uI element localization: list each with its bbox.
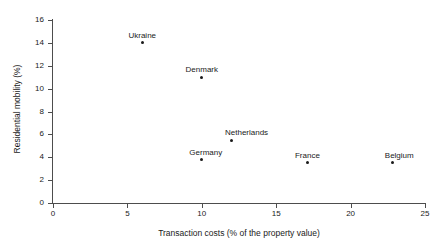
y-axis-title: Residential mobility (%): [12, 14, 22, 204]
y-axis-spine: [52, 19, 53, 204]
y-axis-tick: [48, 112, 52, 113]
x-axis-spine: [52, 203, 426, 204]
x-axis-tick: [425, 204, 426, 208]
x-axis-tick: [276, 204, 277, 208]
x-axis-tick: [351, 204, 352, 208]
y-axis-tick: [48, 203, 52, 204]
plot-area: [53, 20, 425, 203]
y-axis-tick: [48, 89, 52, 90]
data-point-label: Belgium: [385, 152, 414, 160]
x-axis-tick-label: 5: [112, 210, 142, 218]
x-axis-title: Transaction costs (% of the property val…: [53, 228, 425, 238]
data-point: [230, 139, 233, 142]
scatter-chart-figure: 0246810121416 0510152025 UkraineDenmarkN…: [0, 0, 444, 249]
x-axis-tick-label: 10: [187, 210, 217, 218]
y-axis-tick: [48, 20, 52, 21]
y-axis-tick: [48, 66, 52, 67]
data-point-label: Germany: [189, 149, 222, 157]
y-axis-tick: [48, 134, 52, 135]
x-axis-tick: [127, 204, 128, 208]
y-axis-tick-label: 0: [0, 199, 44, 207]
y-axis-tick-label: 2: [0, 176, 44, 184]
x-axis-tick-label: 0: [38, 210, 68, 218]
y-axis-tick-label: 12: [0, 62, 44, 70]
x-axis-tick: [53, 204, 54, 208]
x-axis-tick: [202, 204, 203, 208]
y-axis-tick: [48, 157, 52, 158]
x-axis-tick-label: 15: [261, 210, 291, 218]
y-axis-tick: [48, 180, 52, 181]
data-point-label: France: [295, 152, 320, 160]
x-axis-tick-label: 25: [410, 210, 440, 218]
y-axis-tick-label: 4: [0, 153, 44, 161]
x-axis-tick-label: 20: [336, 210, 366, 218]
y-axis-tick: [48, 43, 52, 44]
y-axis-tick-label: 8: [0, 108, 44, 116]
y-axis-tick-label: 6: [0, 130, 44, 138]
data-point-label: Ukraine: [128, 32, 156, 40]
y-axis-tick-label: 10: [0, 85, 44, 93]
y-axis-tick-label: 14: [0, 39, 44, 47]
data-point-label: Netherlands: [225, 129, 268, 137]
data-point-label: Denmark: [186, 66, 218, 74]
y-axis-tick-label: 16: [0, 16, 44, 24]
